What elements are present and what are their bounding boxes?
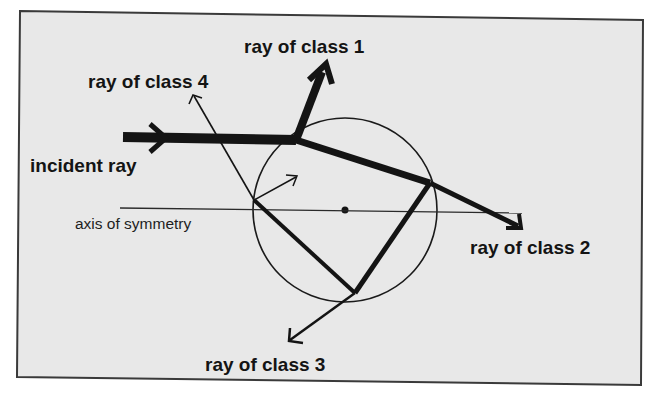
ray-diagram: ray of class 1 ray of class 4 incident r… (0, 0, 662, 395)
incident-ray (123, 137, 296, 140)
label-class-1: ray of class 1 (244, 36, 365, 57)
label-axis-of-symmetry: axis of symmetry (75, 215, 192, 232)
label-class-3: ray of class 3 (205, 354, 325, 375)
label-class-4: ray of class 4 (88, 71, 209, 92)
label-class-2: ray of class 2 (470, 237, 590, 258)
label-incident-ray: incident ray (30, 155, 137, 176)
circle-center-dot (342, 207, 349, 214)
